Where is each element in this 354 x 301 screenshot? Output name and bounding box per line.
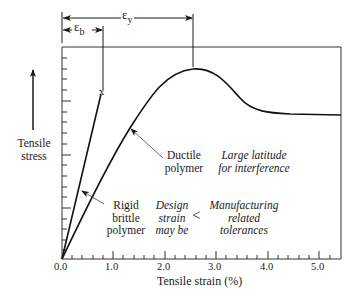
less-than-symbol: < (192, 209, 200, 222)
y-axis-label-line1: Tensile (14, 137, 54, 150)
fracture-marker: x (99, 85, 105, 98)
epsilon-y-subscript: y (127, 14, 132, 25)
design-strain-label: Design strain may be (152, 199, 192, 237)
ductile-label: Ductile polymer (164, 149, 204, 174)
manuf-label-line1: Manufacturing (206, 199, 282, 212)
x-tick-1: 1.0 (105, 261, 118, 272)
brittle-curve (62, 94, 101, 259)
rigid-label: Rigid brittle polymer (104, 199, 148, 237)
x-axis-label: Tensile strain (%) (157, 275, 242, 288)
rigid-pointer (82, 191, 104, 204)
x-tick-2: 2.0 (157, 261, 170, 272)
y-axis-label: Tensile stress (14, 137, 54, 162)
design-label-line2: strain (152, 212, 192, 225)
manufacturing-label: Manufacturing related tolerances (206, 199, 282, 237)
manuf-label-line3: tolerances (206, 224, 282, 237)
design-label-line1: Design (152, 199, 192, 212)
x-axis-ticks (72, 251, 330, 259)
epsilon-b-subscript: b (79, 26, 84, 37)
manuf-label-line2: related (206, 212, 282, 225)
ductile-label-line1: Ductile (164, 149, 204, 162)
x-tick-4: 4.0 (260, 261, 273, 272)
rigid-label-line1: Rigid (104, 199, 148, 212)
latitude-label-line1: Large latitude (214, 149, 294, 162)
ductile-label-line2: polymer (164, 162, 204, 175)
x-tick-0: 0.0 (54, 261, 67, 272)
epsilon-b-label: εb (74, 21, 84, 38)
latitude-label: Large latitude for interference (214, 149, 294, 174)
y-axis-ticks (62, 58, 71, 250)
latitude-label-line2: for interference (214, 162, 294, 175)
x-tick-3: 3.0 (208, 261, 221, 272)
y-axis-label-line2: stress (14, 150, 54, 163)
ductile-pointer (131, 129, 163, 158)
design-label-line3: may be (152, 224, 192, 237)
epsilon-y-label: εy (122, 9, 132, 26)
rigid-label-line2: brittle (104, 212, 148, 225)
rigid-label-line3: polymer (104, 224, 148, 237)
x-tick-5: 5.0 (311, 261, 324, 272)
